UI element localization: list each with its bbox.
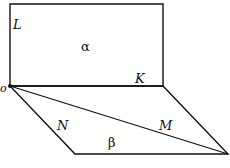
label-O: o [0,82,7,95]
label-M: M [158,118,173,133]
label-K: K [134,71,146,86]
label-alpha: α [81,39,90,54]
label-L: L [12,17,22,32]
label-beta: β [108,135,116,150]
label-N: N [56,118,69,133]
point-o [8,84,12,88]
dihedral-angle-diagram: L α K o N M β [0,0,230,168]
